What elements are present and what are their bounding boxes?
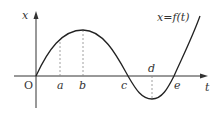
- curve-label: x=f(t): [157, 11, 190, 24]
- point-label-a: a: [57, 79, 64, 92]
- point-label-d: d: [148, 62, 155, 75]
- x-axis-arrow-icon: [34, 11, 39, 19]
- t-axis-arrow-icon: [200, 74, 208, 79]
- point-label-c: c: [121, 79, 127, 92]
- point-label-e: e: [174, 79, 181, 92]
- x-axis-label: x: [22, 9, 29, 22]
- t-axis-label: t: [205, 81, 210, 94]
- origin-label: O: [24, 79, 33, 92]
- graph-svg: x t O a b c d e x=f(t): [0, 0, 224, 113]
- function-graph: x t O a b c d e x=f(t): [0, 0, 224, 113]
- point-label-b: b: [79, 79, 86, 92]
